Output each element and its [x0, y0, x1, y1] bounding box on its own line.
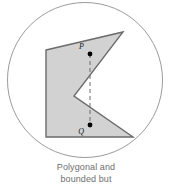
point-p-label: P — [78, 42, 84, 51]
figure-container: P Q Polygonal and bounded but — [0, 0, 172, 194]
point-q-label: Q — [78, 127, 84, 136]
caption-line-1: Polygonal and — [0, 162, 172, 174]
point-p-dot — [88, 52, 93, 57]
point-q-dot — [88, 123, 93, 128]
figure-caption: Polygonal and bounded but — [0, 162, 172, 185]
caption-line-2: bounded but — [0, 174, 172, 186]
